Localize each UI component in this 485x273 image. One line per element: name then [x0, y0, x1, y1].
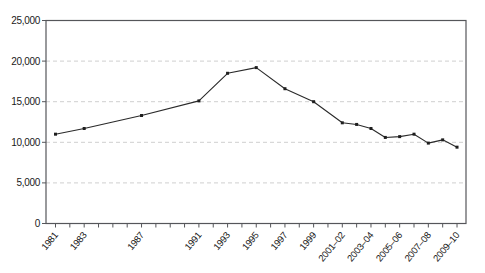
y-tick-label: 20,000: [11, 56, 41, 67]
data-point-marker: [427, 142, 430, 145]
data-point-marker: [384, 136, 387, 139]
y-tick-label: 25,000: [11, 15, 41, 26]
line-chart-canvas: 05,00010,00015,00020,00025,0001981198319…: [0, 0, 485, 273]
data-point-marker: [413, 133, 416, 136]
x-tick-label: 2003–04: [345, 230, 376, 264]
data-point-marker: [54, 133, 57, 136]
x-tick-label: 2005–06: [373, 230, 404, 264]
y-tick-label: 10,000: [11, 137, 41, 148]
line-chart-figure: 05,00010,00015,00020,00025,0001981198319…: [0, 0, 485, 273]
x-tick-label: 2009–10: [431, 230, 462, 264]
y-tick-label: 15,000: [11, 96, 41, 107]
data-point-marker: [441, 138, 444, 141]
plot-border: [46, 21, 466, 224]
data-point-marker: [197, 99, 200, 102]
x-tick-label: 1995: [240, 230, 261, 252]
data-point-marker: [398, 135, 401, 138]
x-tick-label: 1993: [211, 230, 232, 252]
x-tick-label: 1987: [125, 230, 146, 252]
y-tick-label: 5,000: [16, 177, 40, 188]
x-tick-label: 1999: [297, 230, 318, 252]
data-point-marker: [456, 146, 459, 149]
x-tick-label: 1983: [67, 230, 88, 252]
data-line: [56, 68, 458, 148]
x-tick-label: 2001–02: [316, 230, 347, 264]
data-point-marker: [369, 127, 372, 130]
x-tick-label: 1997: [268, 230, 289, 252]
x-tick-label: 2007–08: [402, 230, 433, 264]
data-point-marker: [355, 123, 358, 126]
data-point-marker: [283, 87, 286, 90]
x-tick-label: 1991: [182, 230, 203, 252]
data-point-marker: [226, 72, 229, 75]
data-point-marker: [341, 121, 344, 124]
data-point-marker: [312, 100, 315, 103]
data-point-marker: [255, 66, 258, 69]
y-tick-label: 0: [35, 218, 41, 229]
x-tick-label: 1981: [39, 230, 60, 252]
data-point-marker: [140, 114, 143, 117]
data-point-marker: [83, 127, 86, 130]
